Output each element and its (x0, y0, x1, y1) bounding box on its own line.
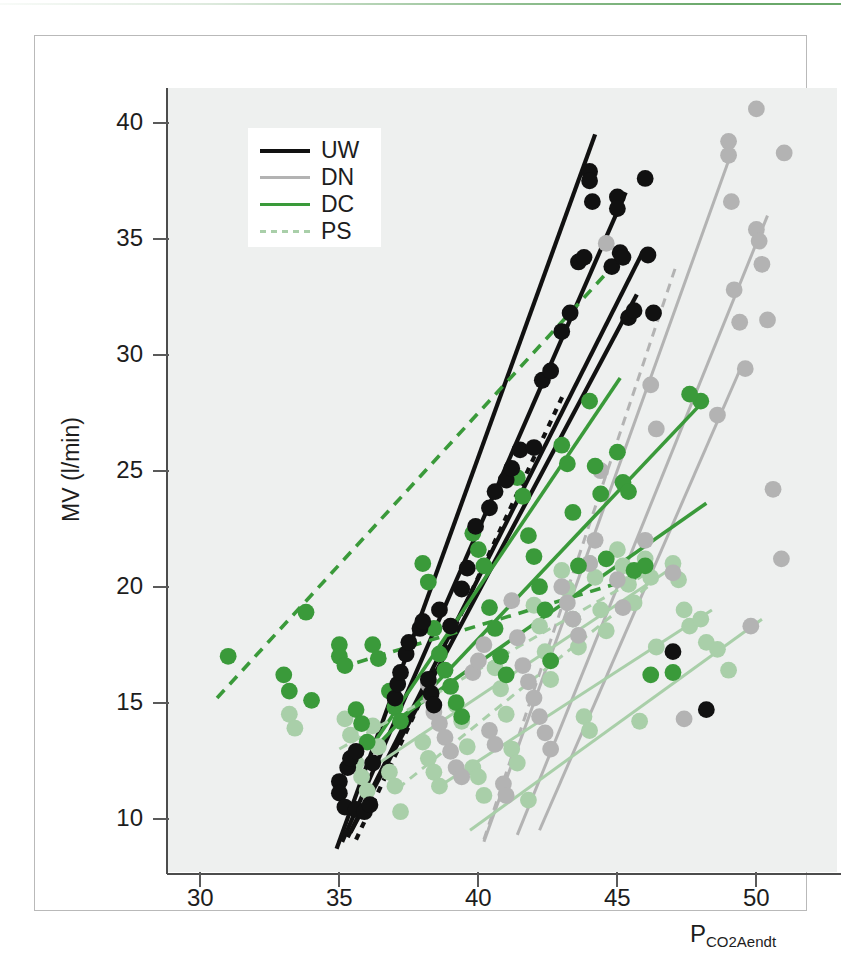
data-point-dc-20 (437, 662, 454, 679)
y-tick-30 (153, 354, 169, 356)
data-point-uw-28 (503, 460, 520, 477)
data-point-ps-26 (509, 755, 526, 772)
data-point-dc-48 (620, 483, 637, 500)
y-tick-20 (153, 586, 169, 588)
data-point-uw-21 (442, 618, 459, 635)
data-point-dn-19 (526, 690, 543, 707)
data-point-ps-24 (498, 706, 515, 723)
data-point-ps-20 (470, 768, 487, 785)
data-point-dn-14 (498, 787, 515, 804)
data-point-uw-46 (626, 302, 643, 319)
y-tick-label-text: 10 (83, 804, 143, 832)
data-point-dn-51 (773, 550, 790, 567)
data-point-ps-6 (359, 782, 376, 799)
x-axis-line (167, 873, 841, 875)
data-point-ps-29 (531, 618, 548, 635)
data-point-dc-1 (275, 666, 292, 683)
data-point-dc-38 (553, 437, 570, 454)
data-point-dn-7 (453, 768, 470, 785)
data-point-uw-39 (584, 193, 601, 210)
y-tick-label-text: 40 (83, 108, 143, 136)
data-point-dc-42 (581, 393, 598, 410)
data-point-dc-40 (564, 504, 581, 521)
data-point-dn-17 (514, 657, 531, 674)
data-point-ps-18 (459, 738, 476, 755)
data-point-dn-38 (709, 407, 726, 424)
data-point-ps-53 (709, 641, 726, 658)
data-point-uw-20 (431, 601, 448, 618)
data-point-uw-23 (459, 560, 476, 577)
x-tick-label-45: 45 (582, 884, 652, 912)
data-point-ps-12 (414, 734, 431, 751)
data-point-dc-28 (487, 620, 504, 637)
data-point-uw-17 (420, 671, 437, 688)
legend-item-uw[interactable]: UW (248, 137, 381, 164)
data-point-dn-26 (570, 627, 587, 644)
data-point-dc-30 (498, 666, 515, 683)
y-tick-label-35: 35 (81, 224, 143, 254)
data-point-uw-50 (665, 643, 682, 660)
data-point-dn-34 (642, 376, 659, 393)
data-point-dc-12 (370, 650, 387, 667)
data-point-uw-49 (645, 305, 662, 322)
legend-swatch-dn-icon (260, 176, 310, 179)
data-point-ps-11 (392, 803, 409, 820)
data-point-dn-49 (759, 312, 776, 329)
data-point-uw-14 (400, 634, 417, 651)
y-tick-label-25: 25 (81, 456, 143, 486)
data-point-ps-1 (286, 720, 303, 737)
y-tick-label-20: 20 (81, 572, 143, 602)
data-point-ps-32 (553, 562, 570, 579)
data-point-uw-30 (526, 439, 543, 456)
data-point-dn-5 (442, 743, 459, 760)
data-point-ps-46 (648, 639, 665, 656)
data-point-ps-56 (581, 722, 598, 739)
x-tick-label-35: 35 (304, 884, 374, 912)
data-point-uw-22 (453, 581, 470, 598)
data-point-dn-41 (723, 193, 740, 210)
data-point-dn-15 (503, 592, 520, 609)
x-tick-label-40: 40 (443, 884, 513, 912)
data-point-uw-24 (467, 518, 484, 535)
data-point-dn-31 (609, 571, 626, 588)
data-point-dn-53 (742, 618, 759, 635)
legend-item-dc[interactable]: DC (248, 191, 381, 218)
data-point-dc-39 (559, 455, 576, 472)
x-tick-label-30: 30 (165, 884, 235, 912)
legend-swatch-dc-icon (260, 203, 310, 206)
data-point-dc-46 (609, 444, 626, 461)
data-point-dn-28 (587, 532, 604, 549)
data-point-ps-15 (431, 778, 448, 795)
data-point-uw-5 (362, 796, 379, 813)
figure-page: 10152025303540 3035404550 MV (l/min) PCO… (0, 0, 841, 953)
data-point-dc-23 (453, 708, 470, 725)
legend: UWDNDCPS (248, 128, 381, 247)
y-tick-10 (153, 818, 169, 820)
data-point-dc-15 (392, 713, 409, 730)
data-point-dn-48 (754, 256, 771, 273)
data-point-dc-36 (537, 601, 554, 618)
legend-item-dn[interactable]: DN (248, 164, 381, 191)
data-point-dc-33 (520, 527, 537, 544)
y-tick-label-text: 25 (83, 456, 143, 484)
x-axis-title-base: P (690, 920, 706, 947)
data-point-ps-39 (598, 622, 615, 639)
legend-item-ps[interactable]: PS (248, 218, 381, 245)
data-point-dn-43 (731, 314, 748, 331)
data-point-dc-37 (542, 653, 559, 670)
data-point-dn-50 (765, 481, 782, 498)
data-point-uw-25 (481, 499, 498, 516)
data-point-dc-0 (220, 648, 237, 665)
data-point-dc-2 (281, 683, 298, 700)
data-point-dc-52 (665, 664, 682, 681)
data-point-dn-44 (737, 360, 754, 377)
y-tick-40 (153, 122, 169, 124)
data-point-ps-57 (631, 713, 648, 730)
data-point-dn-9 (470, 653, 487, 670)
legend-label-text: DN (321, 166, 354, 189)
y-tick-label-text: 35 (83, 224, 143, 252)
y-tick-label-text: 15 (83, 688, 143, 716)
data-point-dc-32 (514, 488, 531, 505)
data-point-dc-16 (414, 555, 431, 572)
data-point-dc-50 (637, 557, 654, 574)
